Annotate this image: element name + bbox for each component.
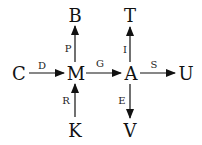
node-k: K [68, 120, 82, 141]
edge-label-d: D [38, 60, 46, 71]
graph-svg: D G S P R I E C M A U B K [0, 0, 202, 145]
node-m: M [67, 63, 85, 84]
node-t: T [124, 5, 136, 26]
node-a: A [124, 63, 139, 84]
node-b: B [68, 5, 81, 26]
edge-m-a: G [86, 58, 121, 73]
node-u: U [178, 63, 193, 84]
node-c: C [12, 63, 26, 84]
edge-a-u: S [140, 59, 175, 73]
edge-a-t: I [123, 27, 130, 62]
edge-label-s: S [151, 59, 158, 70]
diagram-canvas: D G S P R I E C M A U B K [0, 0, 202, 145]
edge-label-g: G [96, 58, 104, 69]
edge-a-v: E [118, 84, 130, 118]
edge-m-b: P [65, 26, 75, 62]
edge-k-m: R [62, 84, 75, 117]
edge-label-p: P [65, 43, 72, 54]
node-v: V [123, 120, 138, 141]
edge-c-m: D [29, 60, 64, 73]
edge-label-r: R [62, 95, 70, 106]
edge-label-i: I [123, 44, 127, 55]
edge-label-e: E [118, 95, 125, 106]
